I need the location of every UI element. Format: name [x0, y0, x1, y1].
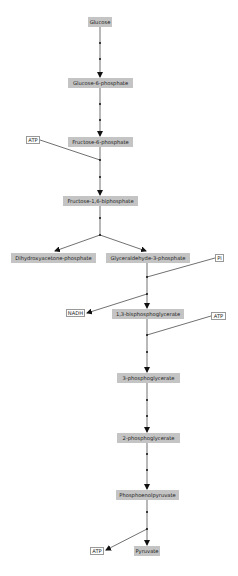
node-pyruvate[interactable]: Pyruvate: [134, 546, 160, 556]
cofactor-nadh[interactable]: NADH: [66, 309, 85, 317]
node-1-3-bisphosphoglycerate[interactable]: 1,3-bisphosphoglycerate: [112, 309, 184, 319]
node-glucose[interactable]: Glucose: [88, 17, 112, 27]
node-phosphoenolpyruvate[interactable]: Phosphoenolpyruvate: [116, 490, 179, 500]
cofactor-atp-2[interactable]: ATP: [211, 312, 226, 320]
node-fructose-6-phosphate[interactable]: Fructose-6-phosphate: [68, 137, 133, 147]
node-3-phosphoglycerate[interactable]: 3-phosphoglycerate: [117, 373, 180, 383]
cofactor-pi[interactable]: Pi: [215, 254, 224, 262]
cofactor-atp-3[interactable]: ATP: [90, 547, 104, 555]
node-dihydroxyacetone-phosphate[interactable]: Dihydroxyacetone-phosphate: [11, 253, 96, 263]
node-2-phosphoglycerate[interactable]: 2-phosphoglycerate: [117, 433, 180, 443]
node-glyceraldehyde-3-phosphate[interactable]: Glyceraldehyde-3-phosphate: [106, 253, 190, 263]
node-fructose-1-6-biphosphate[interactable]: Fructose-1,6-biphosphate: [63, 196, 138, 206]
node-glucose-6-phosphate[interactable]: Glucose-6-phosphate: [68, 78, 133, 88]
cofactor-atp-1[interactable]: ATP: [26, 136, 40, 144]
